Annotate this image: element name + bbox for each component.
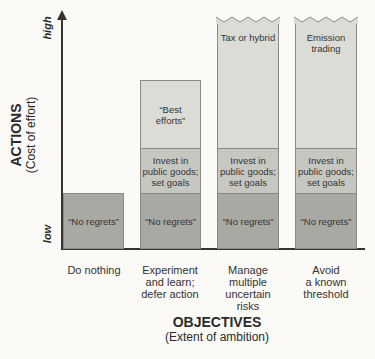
y-axis-title-sub: (Cost of effort) [24,55,38,215]
category-label-avoid: Avoid a known threshold [286,264,366,300]
invest-line1: Invest in [230,155,265,166]
cat3-line4: risks [237,300,260,312]
invest-line3: set goals [229,177,267,188]
segment-tax-or-hybrid: Tax or hybrid [217,22,279,149]
cat3-line2: multiple [229,276,267,288]
zigzag-break-icon [294,16,358,24]
invest-line2: public goods; [220,166,276,177]
invest-line3: set goals [307,177,345,188]
cat4-line3: threshold [303,288,348,300]
cat4-line1: Avoid [312,264,339,276]
x-axis-title: OBJECTIVES (Extent of ambition) [137,314,297,344]
invest-line3: set goals [151,177,189,188]
segment-invest-public-goods: Invest inpublic goods;set goals [140,148,201,194]
invest-line2: public goods; [143,166,199,177]
cat1-line1: Do nothing [67,264,120,276]
segment-invest-public-goods: Invest inpublic goods;set goals [295,148,357,194]
segment-no-regrets: “No regrets” [217,193,279,249]
bar-manage-risks: Tax or hybrid Invest inpublic goods;set … [217,22,279,249]
segment-best-efforts: “Bestefforts” [140,80,201,149]
category-label-experiment: Experiment and learn; defer action [130,264,210,300]
invest-line2: public goods; [298,166,354,177]
y-axis-title-main: ACTIONS [8,55,24,215]
x-axis-title-sub: (Extent of ambition) [137,330,297,344]
zigzag-break-icon [216,16,280,24]
segment-no-regrets: “No regrets” [63,193,124,249]
category-label-manage: Manage multiple uncertain risks [208,264,288,312]
cat2-line3: defer action [141,288,198,300]
y-tick-low: low [41,214,53,254]
invest-line1: Invest in [308,155,343,166]
segment-emission-trading: Emissiontrading [295,22,357,149]
segment-no-regrets: “No regrets” [295,193,357,249]
invest-line1: Invest in [153,155,188,166]
cat2-line1: Experiment [142,264,198,276]
best-efforts-line2: efforts” [156,115,185,126]
best-efforts-line1: “Best [159,104,181,115]
emission-line2: trading [311,43,340,54]
emission-line1: Emission [307,32,346,43]
cat3-line1: Manage [228,264,268,276]
category-label-do-nothing: Do nothing [54,264,134,276]
x-axis-title-main: OBJECTIVES [137,314,297,330]
segment-no-regrets: “No regrets” [140,193,201,249]
cat4-line2: a known [306,276,347,288]
y-axis-title: ACTIONS (Cost of effort) [8,55,38,215]
bar-avoid-threshold: Emissiontrading Invest inpublic goods;se… [295,22,357,249]
bar-do-nothing: “No regrets” [63,193,124,249]
y-tick-high: high [41,8,53,48]
cat2-line2: and learn; [146,276,195,288]
bar-experiment: “Bestefforts” Invest inpublic goods;set … [140,80,201,249]
y-axis-arrow-icon [57,10,67,20]
cat3-line3: uncertain [225,288,270,300]
segment-invest-public-goods: Invest inpublic goods;set goals [217,148,279,194]
